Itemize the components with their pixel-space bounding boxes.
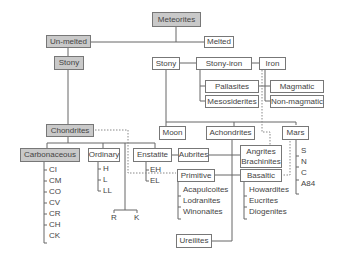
node-moon: Moon (159, 126, 186, 140)
node-iron: Iron (259, 57, 286, 70)
node-primitive: Primitive (177, 169, 215, 182)
node-meteorites: Meteorites (152, 12, 201, 27)
group-a84: A84 (301, 180, 315, 188)
node-enstatite: Enstatite (133, 148, 172, 162)
node-aubrites: Aubrites (178, 148, 209, 162)
group-el: EL (150, 177, 160, 185)
node-ordinary: Ordinary (88, 148, 120, 162)
node-stony-melted: Stony (152, 57, 180, 70)
group-ck: CK (49, 232, 60, 240)
group-co: CO (49, 188, 61, 196)
node-non-magmatic: Non-magmatic (270, 95, 324, 108)
node-achondrites: Achondrites (206, 126, 255, 140)
node-ureilites: Ureilites (176, 234, 212, 248)
node-mars: Mars (282, 126, 309, 140)
group-ci: CI (49, 166, 57, 174)
group-ch: CH (49, 221, 61, 229)
group-l: L (103, 176, 107, 184)
group-howardites: Howardites (249, 186, 289, 194)
node-stony-iron: Stony-iron (196, 57, 252, 70)
group-cr: CR (49, 210, 61, 218)
node-melted: Melted (204, 36, 234, 48)
group-cm: CM (49, 177, 61, 185)
group-ll: LL (103, 187, 112, 195)
group-acapulcoites: Acapulcoites (183, 186, 228, 194)
group-c: C (301, 169, 307, 177)
group-k: K (134, 214, 139, 222)
node-basaltic: Basaltic (240, 169, 282, 182)
node-un-melted: Un-melted (46, 35, 91, 48)
group-winonaites: Winonaites (183, 208, 223, 216)
node-angrites-brachinites: Angrites Brachinites (240, 145, 282, 168)
node-pallasites: Pallasites (205, 80, 259, 93)
group-cv: CV (49, 199, 60, 207)
group-h: H (103, 165, 109, 173)
label-brachinites: Brachinites (241, 157, 281, 166)
group-lodranites: Lodranites (183, 197, 220, 205)
node-magmatic: Magmatic (270, 80, 324, 93)
group-n: N (301, 158, 307, 166)
group-s: S (301, 147, 306, 155)
group-diogenites: Diogenites (249, 208, 287, 216)
node-mesosiderites: Mesosiderites (205, 95, 259, 108)
group-eh: EH (150, 166, 161, 174)
node-carbonaceous: Carbonaceous (20, 148, 80, 162)
group-eucrites: Eucrites (249, 197, 278, 205)
node-chondrites: Chondrites (46, 124, 94, 137)
group-r: R (111, 214, 117, 222)
node-stony-unmelted: Stony (54, 56, 84, 70)
label-angrites: Angrites (246, 147, 275, 156)
